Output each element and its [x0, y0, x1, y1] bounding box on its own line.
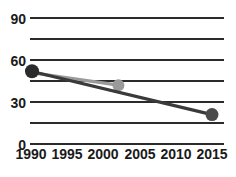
y-tick-label-90: 90 — [10, 11, 26, 27]
x-axis-tick-labels: 1990 1995 2000 2005 2010 2015 — [15, 146, 227, 162]
x-tick-label-2005: 2005 — [124, 146, 155, 162]
y-tick-label-30: 30 — [10, 95, 26, 111]
series-dark-marker-2015 — [206, 108, 219, 121]
chart-canvas: 90 60 30 0 1990 1995 2000 2005 2010 2015 — [0, 0, 236, 177]
y-tick-label-60: 60 — [10, 53, 26, 69]
line-chart: 90 60 30 0 1990 1995 2000 2005 2010 2015 — [0, 0, 236, 177]
y-axis-tick-labels: 90 60 30 0 — [10, 11, 26, 153]
series-light-marker-2002 — [112, 79, 124, 91]
gridlines — [30, 18, 224, 144]
x-tick-label-2000: 2000 — [87, 146, 118, 162]
series-dark-series — [25, 64, 219, 121]
x-tick-label-2010: 2010 — [160, 146, 191, 162]
x-tick-label-2015: 2015 — [196, 146, 227, 162]
series-dark-marker-1990 — [25, 64, 39, 78]
series-dark-line — [31, 71, 212, 114]
x-tick-label-1995: 1995 — [51, 146, 82, 162]
x-tick-label-1990: 1990 — [15, 146, 46, 162]
